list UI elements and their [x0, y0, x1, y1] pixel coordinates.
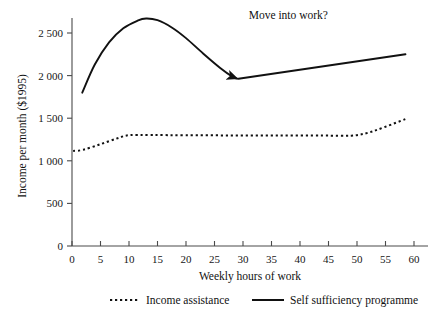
series-line-self-sufficiency-programme-subsidy-curve [82, 19, 237, 93]
x-tick-label: 15 [152, 253, 164, 265]
x-tick-label: 35 [266, 253, 278, 265]
y-axis-ticks: 05001 0001 5002 0002 500 [38, 27, 72, 252]
x-tick-label: 30 [238, 253, 250, 265]
x-tick-label: 50 [352, 253, 364, 265]
y-tick-label: 1 500 [38, 112, 63, 124]
y-tick-label: 0 [58, 240, 64, 252]
y-axis-title: Income per month ($1995) [16, 74, 29, 198]
x-tick-label: 10 [124, 253, 136, 265]
y-tick-label: 2 500 [38, 27, 63, 39]
x-axis-title: Weekly hours of work [199, 270, 301, 283]
line-chart: 05001 0001 5002 0002 500 051015202530354… [0, 0, 447, 316]
x-tick-label: 60 [409, 253, 421, 265]
chart-legend: Income assistance Self sufficiency progr… [110, 294, 418, 307]
y-tick-label: 500 [47, 197, 64, 209]
chart-axes [72, 18, 428, 246]
series-line-self-sufficiency-programme-work-line [238, 54, 405, 78]
x-tick-label: 20 [181, 253, 193, 265]
legend-label-income-assistance: Income assistance [146, 294, 229, 306]
x-tick-label: 55 [380, 253, 392, 265]
annotation-move-into-work: Move into work? [249, 9, 328, 21]
y-tick-label: 2 000 [38, 70, 63, 82]
x-tick-label: 25 [209, 253, 221, 265]
chart-series-layer [73, 19, 405, 151]
x-tick-label: 0 [69, 253, 75, 265]
x-tick-label: 40 [295, 253, 307, 265]
x-axis-ticks: 051015202530354045505560 [69, 241, 420, 265]
chart-figure: 05001 0001 5002 0002 500 051015202530354… [0, 0, 447, 316]
legend-label-self-sufficiency-programme: Self sufficiency programme [290, 294, 418, 307]
x-tick-label: 45 [323, 253, 335, 265]
x-tick-label: 5 [98, 253, 104, 265]
y-tick-label: 1 000 [38, 155, 63, 167]
series-line-income-assistance [73, 119, 405, 151]
